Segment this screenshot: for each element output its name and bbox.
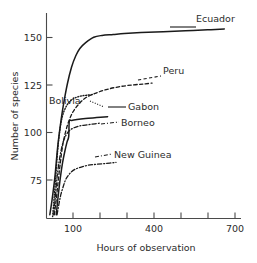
y-tick-label-125: 125 bbox=[24, 80, 42, 91]
x-tick-labels: 100 400 700 bbox=[64, 223, 244, 234]
leader-line-peru bbox=[138, 76, 161, 80]
curve-gabon bbox=[56, 117, 107, 215]
y-tick-label-150: 150 bbox=[24, 32, 42, 43]
series-label-ecuador: Ecuador bbox=[196, 13, 235, 24]
x-axis-title: Hours of observation bbox=[96, 242, 195, 253]
x-tick-label-400: 400 bbox=[145, 223, 163, 234]
leader-line-borneo bbox=[101, 122, 119, 124]
leader-lines bbox=[90, 27, 196, 157]
series-label-peru: Peru bbox=[163, 65, 184, 76]
x-tick-marks bbox=[73, 213, 235, 219]
series-label-bolivia: Bolivia bbox=[49, 95, 81, 106]
y-tick-labels: 150 125 100 75 bbox=[24, 32, 42, 186]
y-tick-label-100: 100 bbox=[24, 127, 42, 138]
series-label-group: EcuadorPeruBoliviaGabonBorneoNew Guinea bbox=[49, 13, 235, 160]
curve-new-guinea bbox=[57, 162, 116, 214]
axis-group bbox=[47, 13, 242, 219]
y-tick-label-75: 75 bbox=[30, 175, 42, 186]
leader-line-new-guinea bbox=[95, 154, 112, 157]
x-tick-label-100: 100 bbox=[64, 223, 82, 234]
series-label-borneo: Borneo bbox=[121, 117, 155, 128]
chart-canvas: 150 125 100 75 100 400 700 Hours of obse… bbox=[0, 0, 257, 263]
series-label-new-guinea: New Guinea bbox=[114, 149, 171, 160]
leader-line-bolivia bbox=[90, 101, 104, 107]
series-label-gabon: Gabon bbox=[128, 101, 159, 112]
y-axis-title: Number of species bbox=[9, 72, 20, 161]
x-tick-label-700: 700 bbox=[226, 223, 244, 234]
y-tick-marks bbox=[47, 38, 53, 181]
species-accumulation-chart: 150 125 100 75 100 400 700 Hours of obse… bbox=[0, 0, 257, 263]
